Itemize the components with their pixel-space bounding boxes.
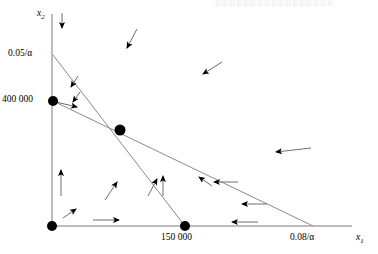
arrow-upper-right-down-left [203,62,222,74]
vertex-150000 [180,221,190,231]
constraint-line-0.08-alpha [53,101,313,226]
tick-label-x-mid: 150 000 [161,233,192,243]
arrow-upper-down-left [127,29,137,48]
vertex-400000 [48,96,58,106]
tick-label-y-mid: 400 000 [2,95,33,105]
arrow-right-mid-left [276,148,311,152]
tick-label-x-right: 0.08/α [290,233,314,243]
arrow-diagonal-up-left [199,177,212,186]
scan-artifact-band [214,0,334,7]
y-axis-label: x2 [37,9,45,21]
vertex-intersection [115,125,126,136]
arrow-inner-up-left [105,182,117,200]
x-axis-label: x1 [356,233,364,245]
arrow-inner-b-down-left [73,92,80,102]
tick-label-y-top: 0.05/α [8,49,32,59]
lp-feasible-region-figure: x2 x1 0.05/α 400 000 150 000 0.08/α [0,0,378,254]
arrow-bottom-left-up-right [63,209,76,218]
diagram-canvas [0,0,378,254]
vertex-markers [47,96,190,231]
vertex-origin [47,221,57,231]
gradient-arrows [56,13,311,222]
constraint-line-0.05-alpha [53,55,185,226]
